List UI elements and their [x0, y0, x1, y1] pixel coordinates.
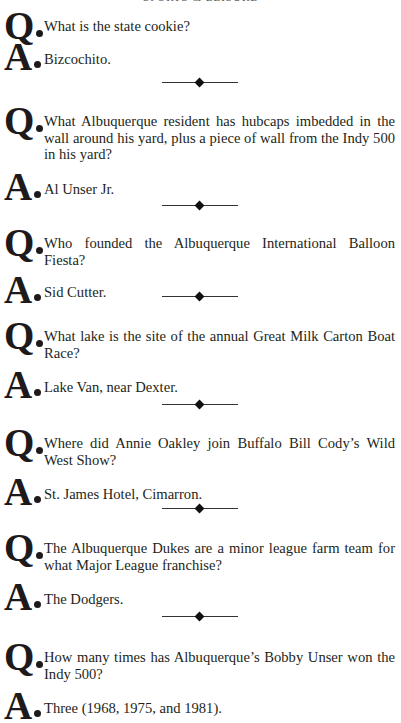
answer-text: Lake Van, near Dexter. — [44, 379, 178, 395]
answer-marker: A — [4, 370, 41, 400]
bullet-dot-icon — [34, 191, 41, 198]
qa-item: Q What is the state cookie? A Bizcochito… — [0, 18, 401, 67]
section-divider — [162, 292, 238, 301]
diamond-ornament-icon — [195, 77, 205, 87]
qa-item: Q How many times has Albuquerque’s Bobby… — [0, 649, 401, 717]
qa-item: Q Who founded the Albuquerque Internatio… — [0, 235, 401, 301]
diamond-ornament-icon — [195, 611, 205, 621]
question-text: What is the state cookie? — [44, 18, 190, 34]
qa-item: Q What Albuquerque resident has hubcaps … — [0, 113, 401, 197]
answer-text: Three (1968, 1975, and 1981). — [44, 700, 222, 716]
question-text: The Albuquerque Dukes are a minor league… — [44, 540, 395, 573]
running-header: SPORTS & LEISURE — [0, 0, 401, 3]
question-text: How many times has Albuquerque’s Bobby U… — [44, 649, 395, 682]
answer-text: Sid Cutter. — [44, 284, 106, 300]
bullet-dot-icon — [34, 61, 41, 68]
answer-row: A Al Unser Jr. — [0, 181, 401, 198]
answer-marker: A — [4, 275, 41, 305]
answer-marker: A — [4, 477, 41, 507]
answer-text: St. James Hotel, Cimarron. — [44, 486, 202, 502]
section-divider — [162, 504, 238, 513]
answer-text: Bizcochito. — [44, 51, 111, 67]
bullet-dot-icon — [36, 247, 43, 254]
question-text: What Albuquerque resident has hubcaps im… — [44, 113, 395, 162]
bullet-dot-icon — [36, 340, 43, 347]
diamond-ornament-icon — [195, 291, 205, 301]
bullet-dot-icon — [34, 710, 41, 717]
section-divider — [162, 400, 238, 409]
answer-marker: A — [4, 582, 41, 612]
question-marker: Q — [4, 642, 43, 672]
answer-text: The Dodgers. — [44, 591, 123, 607]
bullet-dot-icon — [36, 447, 43, 454]
question-marker: Q — [4, 106, 43, 136]
bullet-dot-icon — [36, 125, 43, 132]
bullet-dot-icon — [36, 552, 43, 559]
answer-row: A Three (1968, 1975, and 1981). — [0, 700, 401, 717]
bullet-dot-icon — [34, 294, 41, 301]
question-row: Q The Albuquerque Dukes are a minor leag… — [0, 540, 401, 573]
bullet-dot-icon — [34, 601, 41, 608]
diamond-ornament-icon — [195, 503, 205, 513]
diamond-ornament-icon — [195, 399, 205, 409]
answer-row: A Lake Van, near Dexter. — [0, 379, 401, 396]
question-marker: Q — [4, 428, 43, 458]
answer-marker: A — [4, 691, 41, 721]
qa-item: Q The Albuquerque Dukes are a minor leag… — [0, 540, 401, 608]
question-row: Q What Albuquerque resident has hubcaps … — [0, 113, 401, 163]
question-row: Q Who founded the Albuquerque Internatio… — [0, 235, 401, 268]
answer-marker: A — [4, 172, 41, 202]
bullet-dot-icon — [36, 661, 43, 668]
question-row: Q What lake is the site of the annual Gr… — [0, 328, 401, 361]
question-row: Q What is the state cookie? — [0, 18, 401, 35]
question-marker: Q — [4, 228, 43, 258]
answer-marker: A — [4, 42, 41, 72]
diamond-ornament-icon — [195, 200, 205, 210]
question-row: Q Where did Annie Oakley join Buffalo Bi… — [0, 435, 401, 468]
question-text: Where did Annie Oakley join Buffalo Bill… — [44, 435, 395, 468]
bullet-dot-icon — [34, 389, 41, 396]
bullet-dot-icon — [36, 30, 43, 37]
answer-row: A The Dodgers. — [0, 591, 401, 608]
section-divider — [162, 78, 238, 87]
section-divider — [162, 201, 238, 210]
bullet-dot-icon — [34, 496, 41, 503]
question-text: What lake is the site of the annual Grea… — [44, 328, 395, 361]
question-marker: Q — [4, 533, 43, 563]
section-divider — [162, 612, 238, 621]
question-row: Q How many times has Albuquerque’s Bobby… — [0, 649, 401, 682]
question-text: Who founded the Albuquerque Internationa… — [44, 235, 395, 268]
answer-row: A St. James Hotel, Cimarron. — [0, 486, 401, 503]
answer-text: Al Unser Jr. — [44, 181, 114, 197]
qa-item: Q What lake is the site of the annual Gr… — [0, 328, 401, 396]
qa-item: Q Where did Annie Oakley join Buffalo Bi… — [0, 435, 401, 503]
question-marker: Q — [4, 321, 43, 351]
answer-row: A Bizcochito. — [0, 51, 401, 68]
